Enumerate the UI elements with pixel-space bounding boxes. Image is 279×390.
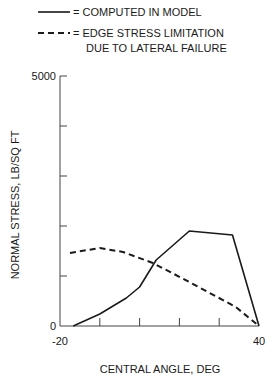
legend: = COMPUTED IN MODEL = EDGE STRESS LIMITA… bbox=[38, 6, 227, 54]
x-ticks bbox=[100, 318, 219, 326]
y-axis-label: NORMAL STRESS, LB/SQ FT bbox=[9, 130, 21, 279]
y-tick-label-5000: 5000 bbox=[32, 70, 56, 82]
x-tick-label-min: -20 bbox=[52, 335, 68, 347]
legend-dashed-label-1: = EDGE STRESS LIMITATION bbox=[73, 27, 224, 39]
y-ticks bbox=[60, 76, 67, 276]
stress-chart: = COMPUTED IN MODEL = EDGE STRESS LIMITA… bbox=[0, 0, 279, 390]
series-line-computed-in-model bbox=[73, 231, 259, 326]
legend-solid-label: = COMPUTED IN MODEL bbox=[73, 6, 202, 18]
series-group bbox=[70, 231, 259, 326]
y-tick-label-0: 0 bbox=[50, 320, 56, 332]
x-tick-label-max: 40 bbox=[253, 335, 265, 347]
x-axis-label: CENTRAL ANGLE, DEG bbox=[100, 363, 221, 375]
legend-dashed-label-2: DUE TO LATERAL FAILURE bbox=[86, 42, 227, 54]
